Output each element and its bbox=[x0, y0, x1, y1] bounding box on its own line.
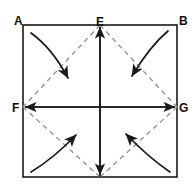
curved-arrow-bottom-left bbox=[31, 135, 76, 172]
curved-arrow-top-left bbox=[31, 33, 68, 78]
label-g: G bbox=[179, 101, 188, 115]
fold-diagonal-f-d bbox=[23, 107, 100, 177]
label-b: B bbox=[179, 14, 188, 28]
fold-diagonal-g-d bbox=[100, 107, 177, 177]
curved-arrow-bottom-right bbox=[126, 134, 170, 172]
curved-arrow-top-right bbox=[132, 31, 168, 76]
label-f: F bbox=[12, 101, 19, 115]
label-a: A bbox=[14, 14, 23, 28]
folded-square-figure: A B E F G bbox=[0, 0, 193, 190]
figure-canvas: A B E F G bbox=[0, 0, 193, 190]
solid-axes-group bbox=[25, 27, 175, 177]
label-e: E bbox=[96, 15, 104, 29]
